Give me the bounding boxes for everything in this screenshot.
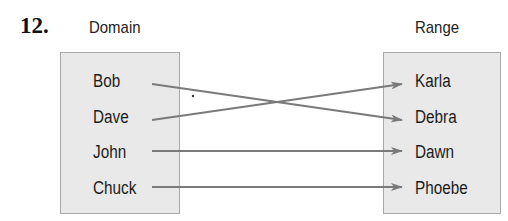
stray-dot <box>192 95 194 97</box>
mapping-arrows <box>0 0 508 221</box>
